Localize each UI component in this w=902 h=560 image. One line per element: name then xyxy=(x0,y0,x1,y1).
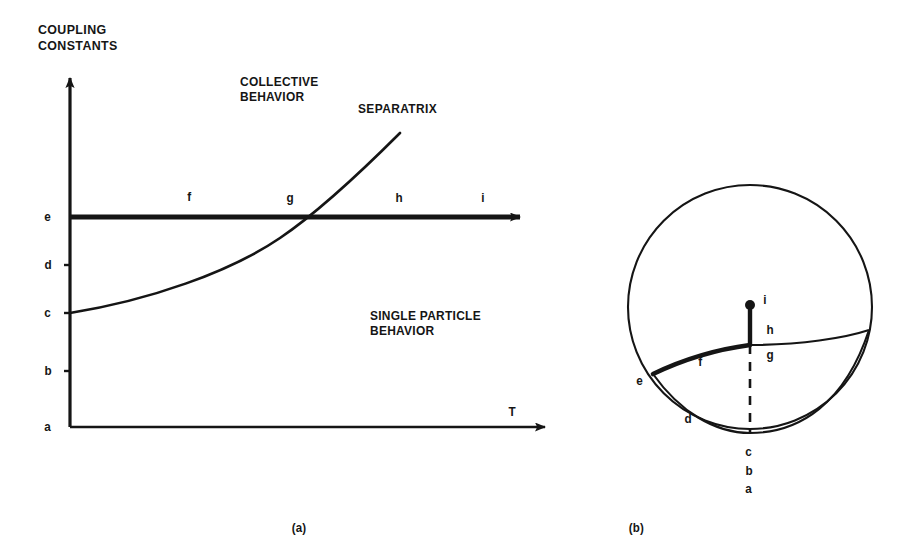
panel-a xyxy=(64,78,545,427)
sphere-label-i: i xyxy=(763,292,766,307)
figure-container: COUPLING CONSTANTS COLLECTIVE BEHAVIOR S… xyxy=(0,0,902,560)
sphere-label-g: g xyxy=(766,347,773,362)
y-tick-label-d: d xyxy=(44,257,51,272)
y-tick-label-a: a xyxy=(44,419,51,434)
y-tick-label-e: e xyxy=(44,209,51,224)
point-i-dot xyxy=(745,300,755,310)
trajectory-label-i: i xyxy=(481,190,484,205)
sphere-label-f: f xyxy=(698,354,702,369)
trajectory-label-g: g xyxy=(286,190,293,205)
caption-panel-a: (a) xyxy=(292,521,307,536)
sphere-label-e: e xyxy=(636,373,643,388)
y-axis-title: COUPLING CONSTANTS xyxy=(38,22,118,54)
sphere-label-a: a xyxy=(745,481,752,496)
separatrix-label: SEPARATRIX xyxy=(358,101,437,116)
trajectory-label-h: h xyxy=(395,190,402,205)
sphere-label-b: b xyxy=(745,463,752,478)
trajectory-label-f: f xyxy=(187,189,191,204)
sphere-label-d: d xyxy=(684,411,691,426)
panel-b xyxy=(628,185,872,433)
figure-svg xyxy=(0,0,902,560)
sphere-label-h: h xyxy=(766,322,773,337)
x-axis-label: T xyxy=(508,404,515,419)
sphere-label-c: c xyxy=(745,444,752,459)
y-tick-label-b: b xyxy=(44,363,51,378)
y-tick-label-c: c xyxy=(44,305,51,320)
caption-panel-b: (b) xyxy=(629,521,644,536)
separatrix-curve xyxy=(70,133,400,313)
